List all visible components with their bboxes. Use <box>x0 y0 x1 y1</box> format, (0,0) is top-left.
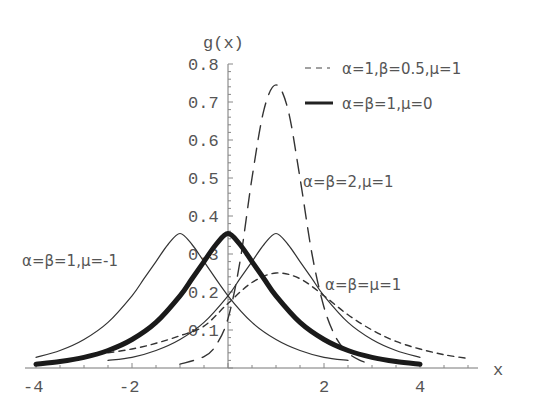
annotation-alpha-beta-1-mu-minus1: α=β=1,μ=-1 <box>22 252 118 270</box>
y-tick-label: 0.7 <box>188 94 219 113</box>
y-tick-label: 0.8 <box>188 56 219 75</box>
x-tick-label: -4 <box>23 378 43 397</box>
y-tick-label: 0.2 <box>188 284 219 303</box>
y-axis-label: g(x) <box>203 34 244 53</box>
x-tick-label: -2 <box>119 378 139 397</box>
legend-label-1: α=β=1,μ=0 <box>342 95 433 113</box>
y-tick-label: 0.4 <box>188 208 219 227</box>
x-axis-label: x <box>493 361 503 380</box>
legend: α=1,β=0.5,μ=1 α=β=1,μ=0 <box>305 60 461 113</box>
x-tick-label: 2 <box>319 378 329 397</box>
y-tick-label: 0.6 <box>188 132 219 151</box>
curves <box>36 85 468 364</box>
chart: -4-2240.10.20.30.40.50.60.70.8 g(x) x α=… <box>0 0 549 416</box>
annotation-alpha-beta-2-mu-1: α=β=2,μ=1 <box>303 173 394 191</box>
annotation-alpha-beta-mu-1: α=β=μ=1 <box>325 276 401 294</box>
x-tick-label: 4 <box>415 378 425 397</box>
annotations: α=β=2,μ=1 α=β=1,μ=-1 α=β=μ=1 <box>22 173 401 294</box>
legend-label-0: α=1,β=0.5,μ=1 <box>342 60 461 78</box>
y-tick-label: 0.5 <box>188 170 219 189</box>
series-curve <box>108 233 420 360</box>
